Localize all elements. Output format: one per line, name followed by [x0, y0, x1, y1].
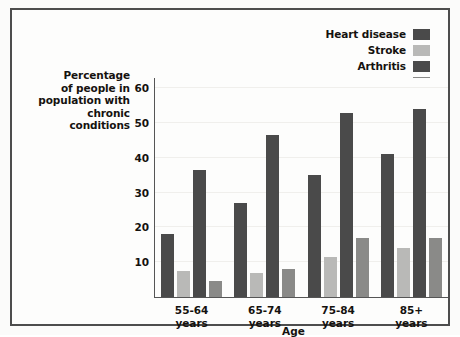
plot-area: 102030405060 55-64years65-74years75-84ye… — [154, 78, 448, 298]
bar[interactable] — [397, 248, 410, 297]
legend-color-swatch — [413, 29, 430, 40]
x-tick-label-line: years — [175, 317, 209, 330]
x-tick-label: 75-84years — [321, 304, 355, 329]
legend-item[interactable]: Stroke — [368, 44, 430, 56]
bar[interactable] — [429, 238, 442, 297]
bar-groups: 55-64years65-74years75-84years85+years — [155, 78, 448, 297]
y-axis-title: Percentageof people inpopulation withchr… — [34, 69, 130, 132]
legend-color-swatch — [413, 45, 430, 56]
y-axis-title-line: chronic conditions — [34, 107, 130, 132]
legend-item-label: Heart disease — [326, 28, 407, 40]
y-tick-label: 10 — [134, 256, 149, 268]
x-tick-label-line: 85+ — [395, 304, 427, 317]
bar[interactable] — [413, 109, 426, 297]
x-tick-label: 55-64years — [175, 304, 209, 329]
bar-group: 85+years — [375, 78, 448, 297]
bar[interactable] — [381, 154, 394, 297]
bar[interactable] — [282, 269, 295, 297]
bar-group: 55-64years — [155, 78, 228, 297]
plot-inner: 102030405060 55-64years65-74years75-84ye… — [154, 78, 448, 298]
bar[interactable] — [209, 281, 222, 297]
bar[interactable] — [356, 238, 369, 297]
bar-group: 75-84years — [302, 78, 375, 297]
legend-item-label: Arthritis — [357, 60, 406, 72]
x-tick-label-line: 75-84 — [321, 304, 355, 317]
bar[interactable] — [266, 135, 279, 297]
bar[interactable] — [340, 113, 353, 297]
y-axis-title-line: of people in — [34, 82, 130, 95]
x-tick-label-line: years — [248, 317, 282, 330]
y-tick-label: 20 — [134, 221, 149, 233]
legend-item-label: Stroke — [368, 44, 406, 56]
x-tick-label-line: 55-64 — [175, 304, 209, 317]
y-tick-label: 60 — [134, 82, 149, 94]
x-tick-label: 65-74years — [248, 304, 282, 329]
bar[interactable] — [193, 170, 206, 297]
bar-group: 65-74years — [228, 78, 301, 297]
x-tick-label-line: years — [321, 317, 355, 330]
legend-item[interactable]: Heart disease — [326, 28, 431, 40]
bar[interactable] — [308, 175, 321, 297]
bar[interactable] — [161, 234, 174, 297]
chart-frame: Heart diseaseStrokeArthritisSerious hear… — [10, 8, 450, 326]
legend-item[interactable]: Arthritis — [357, 60, 430, 72]
x-axis-title: Age — [282, 325, 305, 337]
x-tick-label-line: 65-74 — [248, 304, 282, 317]
y-axis-title-line: population with — [34, 94, 130, 107]
x-tick-label-line: years — [395, 317, 427, 330]
y-tick-label: 40 — [134, 152, 149, 164]
y-tick-label: 30 — [134, 187, 149, 199]
y-axis-title-line: Percentage — [34, 69, 130, 82]
bar[interactable] — [250, 273, 263, 297]
x-tick-label: 85+years — [395, 304, 427, 329]
legend-color-swatch — [413, 61, 430, 72]
bar[interactable] — [324, 257, 337, 297]
y-tick-label: 50 — [134, 117, 149, 129]
bar[interactable] — [177, 271, 190, 297]
bar[interactable] — [234, 203, 247, 297]
